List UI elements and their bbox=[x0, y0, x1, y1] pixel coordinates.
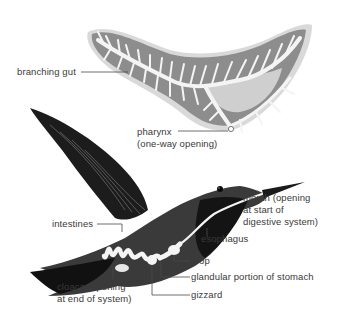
eye bbox=[217, 186, 223, 192]
diagram-canvas: branching gut pharynx (one-way opening) … bbox=[0, 0, 340, 316]
label-gizzard: gizzard bbox=[191, 289, 222, 300]
label-glandular-stomach: glandular portion of stomach bbox=[191, 271, 314, 282]
crop bbox=[168, 245, 180, 255]
label-pharynx: pharynx bbox=[137, 126, 172, 137]
label-branching-gut: branching gut bbox=[17, 66, 76, 77]
illustration-layer bbox=[0, 0, 340, 316]
label-intestines: intestines bbox=[52, 218, 93, 229]
label-cloaca-line1: cloaca (opening bbox=[57, 281, 126, 292]
label-mouth-line3: digestive system) bbox=[243, 216, 318, 227]
label-pharynx-note: (one-way opening) bbox=[137, 138, 217, 149]
label-esophagus: esophagus bbox=[201, 233, 248, 244]
label-mouth-line1: mouth (opening bbox=[243, 192, 310, 203]
gizzard bbox=[147, 255, 157, 265]
throat bbox=[195, 197, 248, 258]
label-mouth-line2: at start of bbox=[243, 204, 284, 215]
label-cloaca-line2: at end of system) bbox=[57, 293, 132, 304]
flatworm-illustration bbox=[87, 24, 312, 132]
leader-intestines bbox=[97, 224, 122, 232]
pharynx-opening bbox=[228, 126, 233, 131]
cloaca bbox=[115, 264, 129, 272]
label-crop: crop bbox=[191, 255, 210, 266]
